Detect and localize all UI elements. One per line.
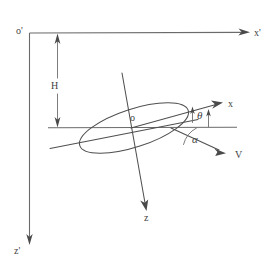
figure-drawing [0, 0, 275, 271]
velocity-vector [171, 128, 226, 156]
label-origin-ground: o' [16, 26, 23, 36]
figure-canvas: o' x' z' H o x z V θ α [0, 0, 275, 271]
label-axis-x-ground: x' [254, 28, 261, 38]
label-axis-x-body: x [228, 99, 233, 109]
ground-horizontal-axis [30, 29, 251, 36]
label-velocity: V [235, 150, 242, 160]
horizontal-reference-line [48, 127, 237, 128]
body-chord-line [50, 120, 198, 149]
label-altitude: H [51, 81, 58, 91]
ground-vertical-axis [26, 33, 32, 245]
label-origin-body: o [130, 113, 135, 123]
label-axis-z-body: z [144, 213, 148, 223]
body-z-axis [122, 73, 148, 211]
label-axis-z-ground: z' [14, 246, 20, 256]
label-angle-alpha: α [192, 134, 198, 145]
label-angle-theta: θ [197, 110, 202, 121]
